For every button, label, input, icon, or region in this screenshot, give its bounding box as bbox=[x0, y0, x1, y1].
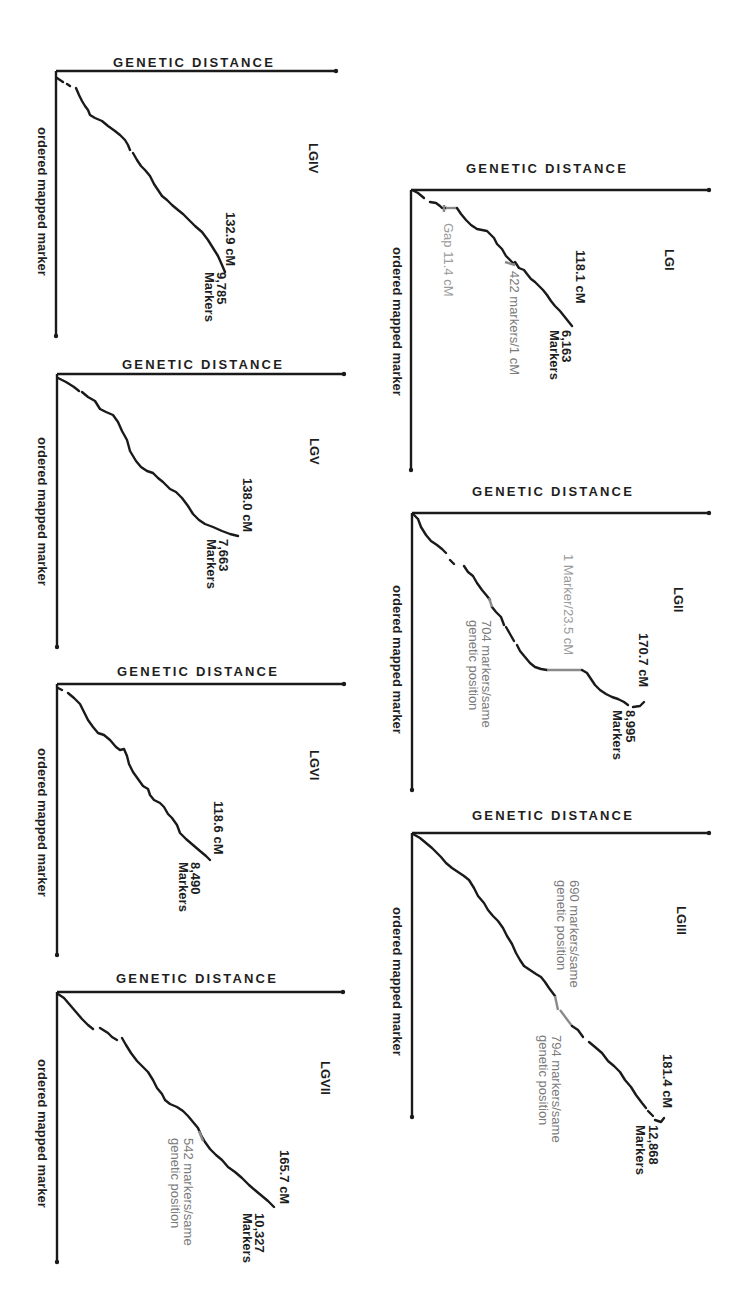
marker-count: 12,868 bbox=[646, 1125, 661, 1165]
panel-label: LGIII bbox=[674, 906, 689, 935]
length-label: 181.4 cM bbox=[660, 1054, 675, 1108]
markers-word: Markers bbox=[633, 1125, 648, 1175]
y-axis-title: ordered mapped marker bbox=[390, 907, 405, 1056]
cluster-annotation: 794 markers/same bbox=[549, 1035, 564, 1143]
plot-lgiii bbox=[0, 0, 734, 1294]
cluster-annotation: 690 markers/same bbox=[567, 880, 582, 988]
cluster-annotation: genetic position bbox=[536, 1035, 551, 1125]
cluster-annotation: genetic position bbox=[554, 880, 569, 970]
